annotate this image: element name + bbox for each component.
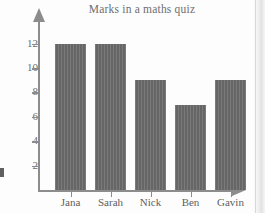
y-tick-mark (32, 141, 38, 143)
x-label-jana: Jana (49, 196, 92, 208)
y-tick-label: 2 (14, 159, 38, 171)
x-label-sarah: Sarah (89, 196, 132, 208)
y-tick-label: 10 (14, 61, 38, 73)
y-tick-mark (32, 68, 38, 70)
bar-sarah (95, 44, 126, 190)
x-label-gavin: Gavin (209, 196, 252, 208)
y-tick-label: 6 (14, 110, 38, 122)
y-tick-label: 12 (14, 37, 38, 49)
bar-gavin (215, 80, 246, 190)
x-label-ben: Ben (169, 196, 212, 208)
y-tick-label: 8 (14, 85, 38, 97)
bar-ben (175, 105, 206, 190)
up-arrow-icon (33, 8, 45, 22)
page-edge-line (255, 0, 256, 213)
chart-figure: Marks in a maths quiz 24681012 JanaSarah… (0, 0, 265, 213)
x-label-nick: Nick (129, 196, 172, 208)
page-margin-artifact (0, 168, 4, 177)
bar-nick (135, 80, 166, 190)
chart-title: Marks in a maths quiz (62, 3, 222, 15)
y-tick-mark (32, 166, 38, 168)
y-tick-label: 4 (14, 134, 38, 146)
y-tick-mark (32, 44, 38, 46)
bar-jana (55, 44, 86, 190)
x-axis-line (38, 190, 233, 192)
y-axis-line (38, 20, 40, 192)
y-tick-mark (32, 92, 38, 94)
y-tick-mark (32, 117, 38, 119)
